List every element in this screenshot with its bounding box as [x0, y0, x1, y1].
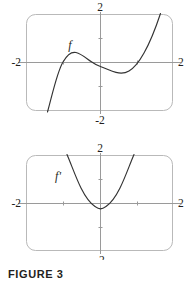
axis-label-bottom: -2: [95, 254, 105, 260]
graph-panel-f-prime: 2 -2 2 -2 f': [0, 140, 191, 260]
graph-f-prime-svg: 2 -2 2 -2 f': [0, 140, 191, 260]
axis-label-left: -2: [11, 197, 21, 209]
axis-label-right: 2: [178, 56, 184, 68]
curve-label-f: f: [68, 38, 73, 52]
axis-label-top: 2: [97, 1, 103, 13]
curve-label-f-prime: f': [55, 169, 61, 183]
axis-label-top: 2: [97, 142, 103, 154]
axis-label-right: 2: [178, 197, 184, 209]
graph-f-svg: 2 -2 2 -2 f: [0, 0, 191, 145]
axis-label-left: -2: [11, 56, 21, 68]
axis-label-bottom: -2: [95, 114, 105, 126]
figure-caption: FIGURE 3: [8, 268, 64, 280]
graph-panel-f: 2 -2 2 -2 f: [0, 0, 191, 145]
figure-3-container: 2 -2 2 -2 f 2 -2 2: [0, 0, 191, 289]
